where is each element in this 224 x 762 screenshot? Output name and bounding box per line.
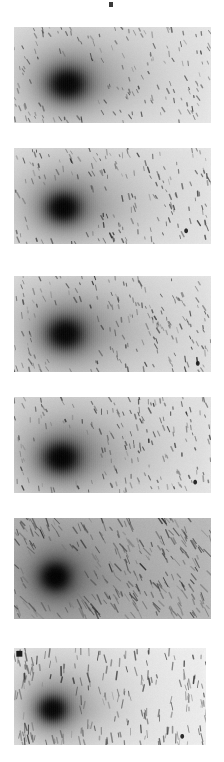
frame-5 — [14, 518, 211, 619]
frame-1 — [14, 27, 211, 123]
frame-6 — [14, 648, 206, 745]
frame-4 — [14, 397, 211, 493]
frame-3 — [14, 276, 211, 372]
top-edge-artifact — [109, 2, 113, 7]
figure-root — [0, 0, 224, 762]
frame-2 — [14, 148, 211, 244]
